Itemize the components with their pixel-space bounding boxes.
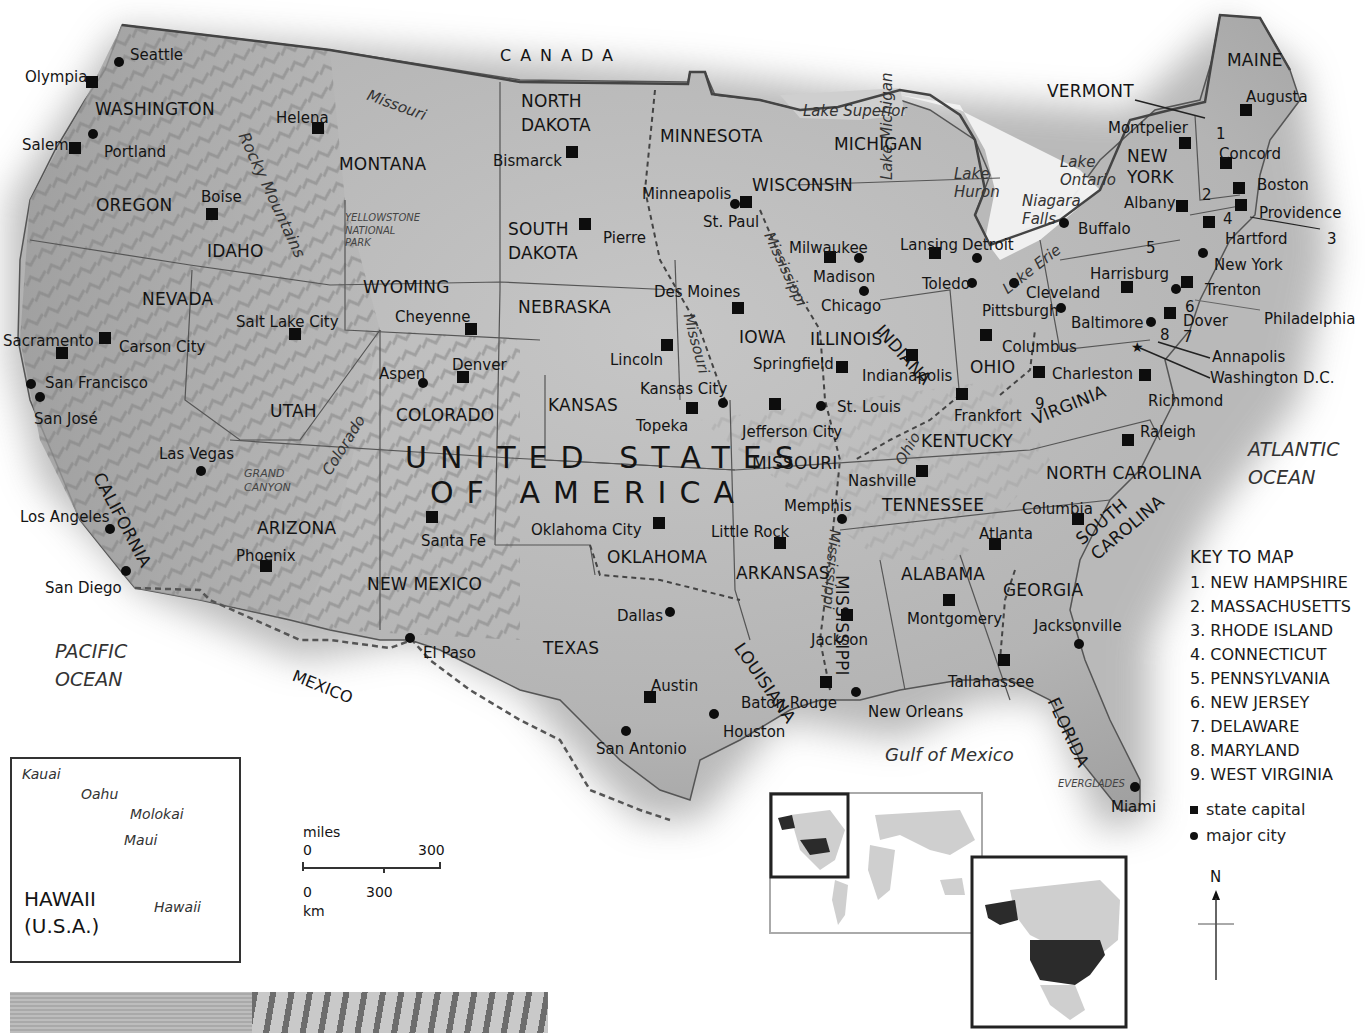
state-label: MONTANA	[339, 156, 426, 173]
north-arrow-compass: N	[1198, 870, 1238, 985]
capital-label: Olympia	[25, 70, 87, 85]
state-label: NORTH CAROLINA	[1046, 465, 1202, 482]
state-capital-square-icon	[732, 302, 744, 314]
city-label: Jacksonville	[1034, 619, 1122, 634]
state-label: UTAH	[270, 403, 317, 420]
state-label: DAKOTA	[521, 117, 591, 134]
capital-label: Carson City	[119, 340, 206, 355]
state-label: MINNESOTA	[660, 128, 763, 145]
state-label: GEORGIA	[1003, 582, 1083, 599]
map-key: KEY TO MAP 1. NEW HAMPSHIRE 2. MASSACHUS…	[1190, 545, 1351, 849]
capital-label: Charleston	[1052, 367, 1133, 382]
city-label: Memphis	[784, 499, 852, 514]
state-label: OHIO	[970, 359, 1015, 376]
key-item-7: 7. DELAWARE	[1190, 715, 1351, 739]
state-label: IDAHO	[207, 243, 264, 260]
major-city-dot-icon	[837, 514, 847, 524]
capital-label: Pierre	[603, 231, 646, 246]
capital-label: Phoenix	[236, 549, 296, 564]
capital-label: Columbus	[1002, 340, 1077, 355]
label-maui: Maui	[124, 833, 157, 847]
state-label: WYOMING	[363, 279, 450, 296]
state-label: OKLAHOMA	[607, 549, 707, 566]
capital-label: Trenton	[1205, 283, 1261, 298]
state-capital-square-icon	[1179, 137, 1191, 149]
state-capital-square-icon	[916, 465, 928, 477]
capital-label: Jackson	[811, 633, 868, 648]
major-city-dot-icon	[972, 253, 982, 263]
legend-major-city: major city	[1190, 823, 1351, 849]
state-capital-square-icon	[836, 361, 848, 373]
capital-label: Hartford	[1225, 232, 1287, 247]
city-label: Miami	[1111, 800, 1156, 815]
state-label: YORK	[1127, 169, 1174, 186]
major-city-dot-icon	[1146, 317, 1156, 327]
major-city-dot-icon	[114, 57, 124, 67]
state-capital-square-icon	[740, 196, 752, 208]
state-capital-square-icon	[99, 332, 111, 344]
city-label: Toledo	[922, 277, 970, 292]
state-label: SOUTH	[508, 221, 569, 238]
capital-label: Columbia	[1022, 502, 1093, 517]
key-item-8: 8. MARYLAND	[1190, 739, 1351, 763]
state-capital-square-icon	[1033, 366, 1045, 378]
capital-label: Concord	[1219, 147, 1281, 162]
city-label: Aspen	[379, 367, 425, 382]
capital-label: Providence	[1259, 206, 1342, 221]
city-label: San José	[34, 412, 98, 427]
state-capital-square-icon	[566, 146, 578, 158]
state-label: MISSOURI	[752, 455, 838, 472]
city-label: New York	[1214, 258, 1283, 273]
state-label: MAINE	[1227, 52, 1283, 69]
capital-label: Richmond	[1148, 394, 1223, 409]
state-number: 4	[1223, 212, 1233, 227]
major-city-dot-icon	[1059, 218, 1069, 228]
city-label: El Paso	[423, 646, 476, 661]
city-label: San Antonio	[596, 742, 687, 757]
state-capital-square-icon	[1190, 806, 1198, 814]
label-lake-ontario: LakeOntario	[1060, 153, 1116, 189]
city-label: St. Louis	[837, 400, 901, 415]
label-everglades: EVERGLADES	[1058, 778, 1125, 791]
state-number: 3	[1327, 232, 1337, 247]
state-label: NEW MEXICO	[367, 576, 482, 593]
state-number: 2	[1202, 188, 1212, 203]
state-label: ALABAMA	[901, 566, 985, 583]
state-label: NEW	[1127, 148, 1168, 165]
capital-label: Bismarck	[493, 154, 562, 169]
state-capital-square-icon	[943, 594, 955, 606]
state-label: KANSAS	[548, 397, 618, 414]
major-city-dot-icon	[718, 398, 728, 408]
label-grand-canyon: GRANDCANYON	[244, 467, 291, 495]
state-label: ARIZONA	[257, 520, 336, 537]
capital-label: Madison	[813, 270, 875, 285]
state-label: VERMONT	[1047, 83, 1134, 100]
capital-label: Frankfort	[954, 409, 1022, 424]
city-label: New Orleans	[868, 705, 963, 720]
state-label: DAKOTA	[508, 245, 578, 262]
state-capital-square-icon	[841, 609, 853, 621]
state-label: NORTH	[521, 93, 582, 110]
major-city-dot-icon	[196, 466, 206, 476]
label-lake-michigan: Lake Michigan	[880, 73, 895, 180]
label-pacific-ocean: PACIFICOCEAN	[55, 638, 127, 693]
capital-label: Denver	[452, 358, 507, 373]
city-label: San Francisco	[45, 376, 148, 391]
capital-label: Topeka	[636, 419, 688, 434]
key-item-6: 6. NEW JERSEY	[1190, 691, 1351, 715]
state-label: TENNESSEE	[882, 497, 984, 514]
city-label: San Diego	[45, 581, 122, 596]
major-city-dot-icon	[26, 379, 36, 389]
major-city-dot-icon	[665, 607, 675, 617]
capital-label: Sacramento	[3, 334, 94, 349]
state-capital-square-icon	[956, 388, 968, 400]
major-city-dot-icon	[859, 286, 869, 296]
city-label: Portland	[104, 145, 166, 160]
major-city-dot-icon	[1198, 248, 1208, 258]
state-capital-square-icon	[686, 402, 698, 414]
capital-label: Austin	[651, 679, 698, 694]
state-capital-square-icon	[69, 142, 81, 154]
capital-label: Harrisburg	[1090, 267, 1169, 282]
label-canada: CANADA	[500, 48, 622, 64]
label-kauai: Kauai	[22, 767, 61, 781]
